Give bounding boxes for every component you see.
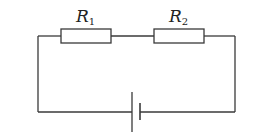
circuit-diagram: R1 R2 bbox=[0, 0, 258, 136]
r2-label: R2 bbox=[168, 6, 188, 27]
resistor-r1 bbox=[61, 29, 111, 43]
r1-label: R1 bbox=[75, 6, 95, 27]
resistor-r2 bbox=[154, 29, 204, 43]
